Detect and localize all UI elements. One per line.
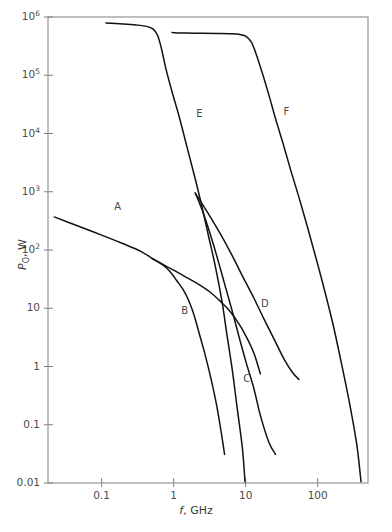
y-axis-units: , W	[16, 239, 29, 257]
x-tick-label-10: 10	[221, 490, 271, 501]
curve-b	[152, 258, 225, 454]
curve-label-f: F	[283, 107, 289, 117]
y-tick-label-8: 106	[0, 11, 40, 22]
x-axis-title: f, GHz	[0, 504, 392, 517]
curve-e	[106, 23, 245, 482]
y-tick-label-2: 1	[0, 361, 40, 372]
curve-label-c: C	[243, 374, 250, 384]
curve-f	[172, 33, 361, 482]
data-curves	[54, 23, 361, 482]
x-tick-label-1: 1	[149, 490, 199, 501]
curve-label-e: E	[196, 109, 202, 119]
y-tick-label-5: 103	[0, 186, 40, 197]
axis-ticks	[44, 17, 318, 487]
y-tick-label-0: 0.01	[0, 477, 40, 488]
y-axis-subscript: O	[22, 257, 31, 263]
y-axis-symbol: P	[16, 263, 29, 270]
y-tick-label-1: 0.1	[0, 419, 40, 430]
figure-container: 0.11101000.010.1110102103104105106 ABCDE…	[0, 0, 392, 532]
axes-frame	[48, 17, 368, 483]
curve-label-a: A	[114, 202, 121, 212]
y-tick-label-7: 105	[0, 69, 40, 80]
chart-plot-area	[0, 0, 392, 532]
x-axis-units: , GHz	[183, 504, 213, 517]
y-axis-title: PO, W	[16, 225, 29, 285]
curve-label-d: D	[261, 299, 269, 309]
y-tick-label-3: 10	[0, 302, 40, 313]
y-tick-label-6: 104	[0, 128, 40, 139]
curve-d	[195, 193, 299, 379]
curve-label-b: B	[181, 306, 188, 316]
x-tick-label-0.1: 0.1	[77, 490, 127, 501]
x-tick-label-100: 100	[293, 490, 343, 501]
